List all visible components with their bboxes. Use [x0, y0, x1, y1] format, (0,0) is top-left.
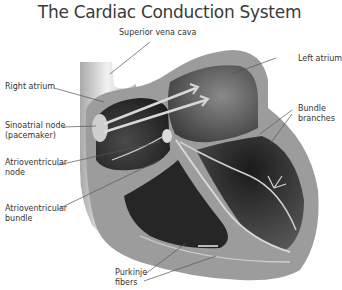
label-av-node-line2: node — [5, 168, 25, 178]
sinoatrial-node — [92, 114, 108, 142]
label-left-atrium: Left atrium — [298, 54, 342, 64]
label-purkinje-line1: Purkinje — [115, 268, 147, 278]
label-bundle-branches-line1: Bundle — [298, 104, 326, 114]
label-av-node-line1: Atrioventricular — [5, 158, 67, 168]
label-sinoatrial-node-line2: (pacemaker) — [5, 131, 56, 141]
label-av-bundle-line1: Atrioventricular — [5, 204, 67, 214]
label-superior-vena-cava: Superior vena cava — [119, 28, 197, 38]
label-bundle-branches-line2: branches — [298, 114, 335, 124]
label-av-bundle-line2: bundle — [5, 214, 32, 224]
label-purkinje-line2: fibers — [115, 278, 138, 288]
left-atrium — [168, 65, 258, 142]
label-sinoatrial-node-line1: Sinoatrial node — [5, 121, 65, 131]
label-right-atrium: Right atrium — [5, 82, 55, 92]
